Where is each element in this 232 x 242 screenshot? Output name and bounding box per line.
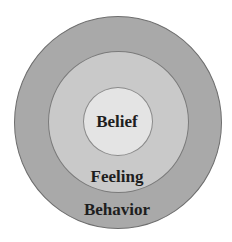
feeling-label: Feeling	[1, 167, 232, 187]
concentric-circles-diagram: Belief Feeling Behavior	[0, 0, 232, 242]
belief-label: Belief	[1, 112, 232, 132]
behavior-label: Behavior	[1, 200, 232, 220]
